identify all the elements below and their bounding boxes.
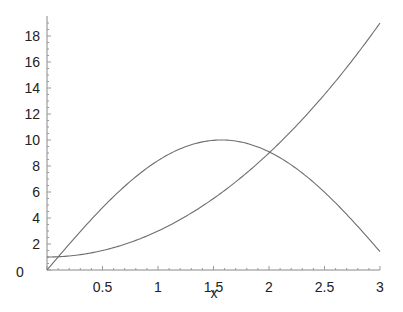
line-chart: 0.511.522.53024681012141618 x	[0, 0, 403, 312]
x-tick-label: 2.5	[315, 279, 335, 295]
x-tick-label: 0.5	[93, 279, 113, 295]
y-tick-label: 18	[24, 28, 40, 44]
y-tick-label: 12	[24, 106, 40, 122]
y-tick-label: 2	[32, 236, 40, 252]
y-tick-label: 10	[24, 132, 40, 148]
y-tick-label: 4	[32, 210, 40, 226]
y-tick-label: 16	[24, 54, 40, 70]
y-tick-label: 8	[32, 158, 40, 174]
x-axis-label: x	[211, 285, 218, 301]
x-tick-label: 2	[265, 279, 273, 295]
series-line-2	[47, 140, 380, 270]
y-tick-label: 6	[32, 184, 40, 200]
y-tick-label: 0	[16, 264, 24, 280]
x-tick-label: 3	[376, 279, 384, 295]
x-tick-label: 1	[154, 279, 162, 295]
axes: 0.511.522.53024681012141618	[16, 16, 384, 295]
y-tick-label: 14	[24, 80, 40, 96]
series-group	[47, 23, 380, 270]
